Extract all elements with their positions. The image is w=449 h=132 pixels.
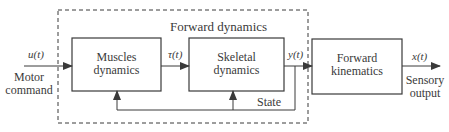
muscles-block-label: Muscles dynamics [72,51,161,77]
motor-command-label: Motor command [2,71,56,97]
signal-torque-label: τ(t) [168,48,182,61]
skeletal-block-label: Skeletal dynamics [189,51,284,77]
signal-input-label: u(t) [28,48,44,61]
signal-state-output-label: y(t) [288,48,303,61]
muscles-line2: dynamics [72,64,161,77]
feedback-state-label: State [257,96,281,109]
kinematics-block-label: Forward kinematics [312,52,402,78]
signal-output-label: x(t) [412,50,427,63]
group-title: Forward dynamics [170,20,267,33]
skeletal-line2: dynamics [189,64,284,77]
sensory-output-label: Sensory output [400,74,449,100]
sensory-line2: output [400,87,449,100]
motor-line2: command [2,84,56,97]
kinematics-line2: kinematics [312,65,402,78]
